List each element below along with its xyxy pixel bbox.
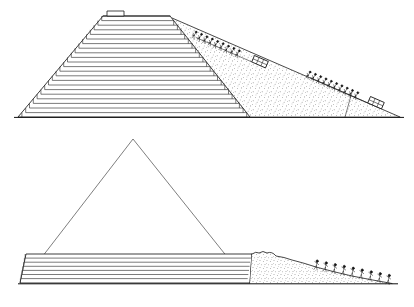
figure-canvas <box>0 0 414 307</box>
lower-built-courses <box>20 254 252 283</box>
pyramid-construction-figure: Pyramid construction with straight ramp … <box>0 0 414 307</box>
lower-panel <box>18 139 398 285</box>
summit-setting-block <box>107 11 124 16</box>
upper-panel <box>14 11 404 117</box>
